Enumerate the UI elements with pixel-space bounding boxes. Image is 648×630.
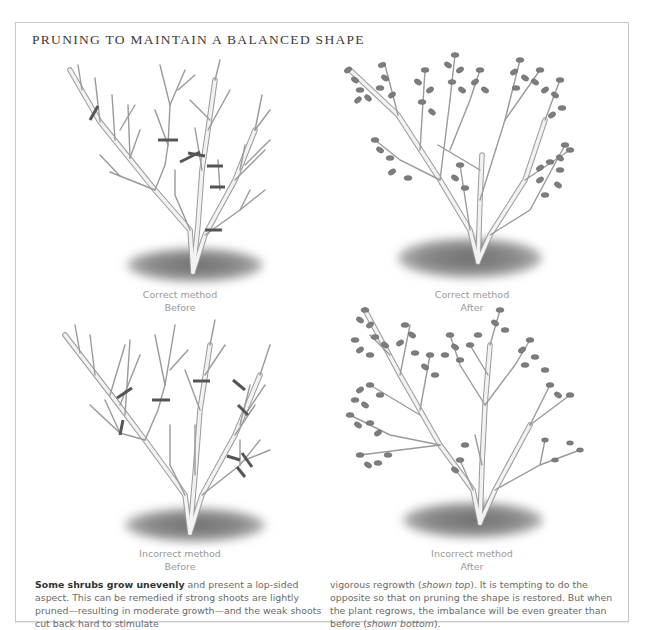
tree-illustration-incorrect-after	[330, 295, 590, 545]
leaves	[343, 53, 574, 198]
tree-illustration-correct-after	[330, 40, 590, 290]
body-italic: shown bottom	[367, 618, 434, 629]
caption-incorrect-before: Incorrect method Before	[100, 547, 260, 573]
body-text: ).	[434, 618, 441, 629]
caption-method: Correct method	[100, 288, 260, 301]
branches	[70, 60, 270, 272]
body-text: vigorous regrowth (	[330, 579, 422, 590]
caption-method: Incorrect method	[392, 547, 552, 560]
body-lead: Some shrubs grow unevenly	[35, 579, 185, 590]
tree-illustration-correct-before	[40, 50, 280, 290]
branches	[65, 320, 270, 533]
body-text-col2: vigorous regrowth (shown top). It is tem…	[330, 578, 620, 630]
page-title: PRUNING TO MAINTAIN A BALANCED SHAPE	[32, 32, 365, 48]
body-italic: shown top	[422, 579, 471, 590]
caption-stage: Before	[100, 301, 260, 314]
caption-method: Incorrect method	[100, 547, 260, 560]
ground-shadow	[398, 238, 542, 278]
caption-stage: Before	[100, 560, 260, 573]
tree-illustration-incorrect-before	[40, 315, 280, 550]
ground-shadow	[403, 502, 543, 538]
caption-incorrect-after: Incorrect method After	[392, 547, 552, 573]
body-text-col1: Some shrubs grow unevenly and present a …	[35, 578, 335, 630]
caption-correct-before: Correct method Before	[100, 288, 260, 314]
caption-stage: After	[392, 560, 552, 573]
leaves	[346, 308, 584, 475]
